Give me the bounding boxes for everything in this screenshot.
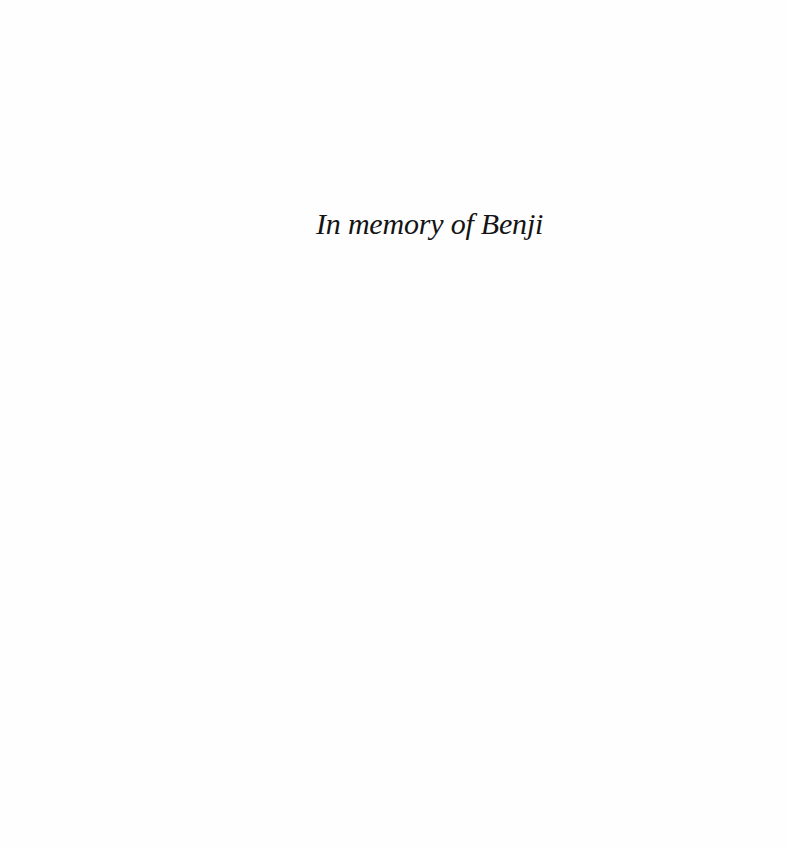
book-page: In memory of Benji — [0, 0, 789, 847]
dedication-text: In memory of Benji — [316, 204, 520, 244]
